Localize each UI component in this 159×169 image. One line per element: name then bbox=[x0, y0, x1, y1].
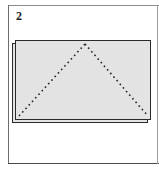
fold-line-right bbox=[85, 44, 148, 116]
step-number-label: 2 bbox=[16, 10, 22, 22]
frame-border-top bbox=[8, 5, 159, 6]
frame-border-right bbox=[157, 5, 158, 164]
figure-panel: 2 bbox=[0, 0, 159, 169]
frame-border-bottom bbox=[8, 163, 159, 164]
fold-line-left bbox=[19, 44, 85, 116]
frame-border-left bbox=[8, 5, 9, 164]
fold-guide-lines bbox=[15, 40, 151, 120]
